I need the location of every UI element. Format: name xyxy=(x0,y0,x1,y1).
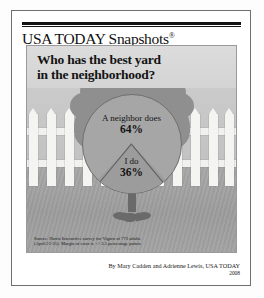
registered-mark-icon: ® xyxy=(169,31,175,40)
byline-credit: By Mary Cadden and Adrienne Lewis, USA T… xyxy=(108,262,240,269)
source-note: Source: Harris Interactive survey for Vi… xyxy=(34,236,224,247)
pie-label-i-do-text: I do xyxy=(83,156,181,166)
pie-label-i-do: I do 36% xyxy=(83,156,181,179)
fence-picket xyxy=(29,114,38,186)
pie-label-neighbor-value: 64% xyxy=(83,123,181,136)
fence-picket xyxy=(225,114,234,186)
fence-picket xyxy=(209,114,218,186)
trunk-root-center xyxy=(124,213,136,222)
tree-trunk-illustration xyxy=(117,192,147,220)
source-line-2: (April 21-25). Margin of error is +/- 3.… xyxy=(34,241,224,247)
masthead-rule-thin xyxy=(22,26,241,27)
snapshot-page: USA TODAY Snapshots® xyxy=(0,0,264,298)
fence-picket xyxy=(191,114,200,186)
byline: By Mary Cadden and Adrienne Lewis, USA T… xyxy=(108,262,240,277)
pie-label-neighbor-text: A neighbor does xyxy=(83,113,181,123)
headline-line-2: in the neighborhood? xyxy=(37,68,236,83)
headline-line-1: Who has the best yard xyxy=(37,53,236,68)
byline-year: 2008 xyxy=(108,270,240,278)
pie-body: A neighbor does 64% I do 36% xyxy=(82,94,182,194)
headline-block: Who has the best yard in the neighborhoo… xyxy=(27,46,236,88)
chart-panel: A neighbor does 64% I do 36% Who has the… xyxy=(26,45,237,253)
masthead-rule-thick xyxy=(22,22,241,25)
pie-label-i-do-value: 36% xyxy=(83,166,181,179)
pie-chart: A neighbor does 64% I do 36% xyxy=(80,92,184,196)
fence-picket xyxy=(47,114,56,186)
pie-label-neighbor: A neighbor does 64% xyxy=(83,113,181,136)
